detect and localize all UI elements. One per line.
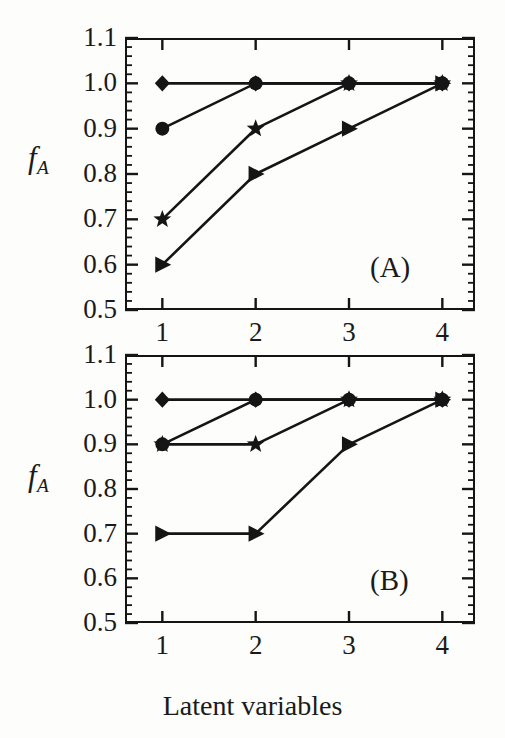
panel-a-y-tick-label: 0.6 — [47, 251, 117, 278]
panel-a-y-tick-label: 1.1 — [47, 24, 117, 51]
data-point-marker — [342, 121, 358, 137]
panel-a-y-axis-label: fA — [28, 140, 48, 176]
data-point-marker — [155, 75, 170, 91]
panel-a-y-axis-label-main: f — [28, 140, 37, 175]
panel-a-y-tick-label: 0.5 — [47, 296, 117, 323]
data-point-marker — [249, 166, 265, 182]
panel-a-tag: (A) — [370, 251, 410, 284]
data-point-marker — [249, 393, 263, 407]
panel-b-y-tick-label: 0.7 — [47, 520, 117, 547]
panel-b-y-tick-label: 0.8 — [47, 475, 117, 502]
panel-a-y-tick-label: 0.7 — [47, 205, 117, 232]
panel-a-y-tick-label: 1.0 — [47, 69, 117, 96]
panel-b-tag: (B) — [370, 564, 409, 597]
data-point-marker — [155, 526, 171, 542]
panel-b-x-tick-label: 4 — [417, 632, 467, 659]
panel-b-x-tick-label: 1 — [137, 632, 187, 659]
panel-b-x-tick-label: 2 — [231, 632, 281, 659]
panel-b-y-tick-label: 0.5 — [47, 609, 117, 636]
panel-b-y-tick-label: 1.0 — [47, 386, 117, 413]
panel-a-y-tick-label: 0.9 — [47, 115, 117, 142]
data-point-marker — [342, 436, 358, 452]
data-point-marker — [155, 122, 169, 136]
x-axis-label: Latent variables — [0, 690, 505, 722]
panel-b-y-tick-label: 1.1 — [47, 341, 117, 368]
panel-a-y-tick-label: 0.8 — [47, 160, 117, 187]
figure-container: fA (A) 0.50.60.70.80.91.01.11234 fA (B) … — [0, 0, 505, 738]
panel-b: fA (B) 0.50.60.70.80.91.01.11234 — [0, 340, 505, 690]
data-point-marker — [155, 391, 170, 407]
data-point-marker — [247, 435, 265, 452]
data-point-marker — [249, 76, 263, 90]
panel-b-y-tick-label: 0.9 — [47, 430, 117, 457]
panel-b-y-axis-label: fA — [28, 458, 48, 494]
panel-b-y-axis-label-main: f — [28, 458, 37, 493]
panel-b-y-tick-label: 0.6 — [47, 564, 117, 591]
panel-a: fA (A) 0.50.60.70.80.91.01.11234 — [0, 0, 505, 340]
panel-b-x-tick-label: 3 — [324, 632, 374, 659]
